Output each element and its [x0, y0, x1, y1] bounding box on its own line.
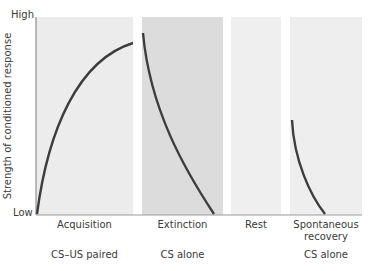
chart: High Low Strength of conditioned respons…	[0, 0, 370, 271]
phase-label-rest: Rest	[231, 219, 281, 231]
panel-acquisition	[36, 17, 133, 215]
condition-label-acquisition: CS–US paired	[36, 249, 133, 261]
panel-spontaneous-recovery	[290, 17, 362, 215]
phase-label-extinction: Extinction	[142, 219, 223, 231]
y-tick-high: High	[11, 9, 34, 20]
panel-extinction	[142, 17, 223, 215]
phase-label-recovery: recovery	[282, 231, 370, 243]
condition-label-spontaneous-recovery: CS alone	[282, 249, 370, 261]
phase-label-acquisition: Acquisition	[36, 219, 133, 231]
panel-rest	[231, 17, 281, 215]
phase-label-spontaneous: Spontaneous	[282, 219, 370, 231]
y-axis-label: Strength of conditioned response	[2, 33, 13, 200]
condition-label-extinction: CS alone	[142, 249, 223, 261]
y-tick-low: Low	[13, 207, 33, 218]
